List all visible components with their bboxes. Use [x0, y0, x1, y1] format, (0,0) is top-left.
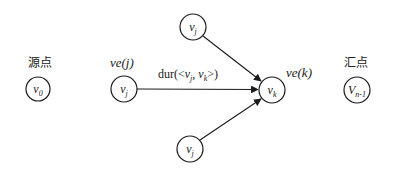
duration-label: dur(<vj, vk>)	[158, 68, 218, 83]
edge-vj-bottom-to-vk	[200, 99, 261, 140]
node-vk-label: vk	[259, 84, 285, 99]
node-v0-label: v0	[25, 83, 51, 98]
node-vj-left-label: vj	[111, 83, 137, 98]
edge-vj-left-to-vk	[137, 89, 258, 90]
node-vn1-label: Vn-1	[341, 84, 373, 99]
ve-k-label: ve(k)	[286, 66, 312, 79]
node-vj-top-label: vj	[180, 21, 206, 36]
sink-label: 汇点	[344, 57, 368, 69]
source-label: 源点	[28, 57, 52, 69]
ve-j-label: ve(j)	[110, 56, 134, 69]
node-vj-bottom-label: vj	[177, 143, 203, 158]
